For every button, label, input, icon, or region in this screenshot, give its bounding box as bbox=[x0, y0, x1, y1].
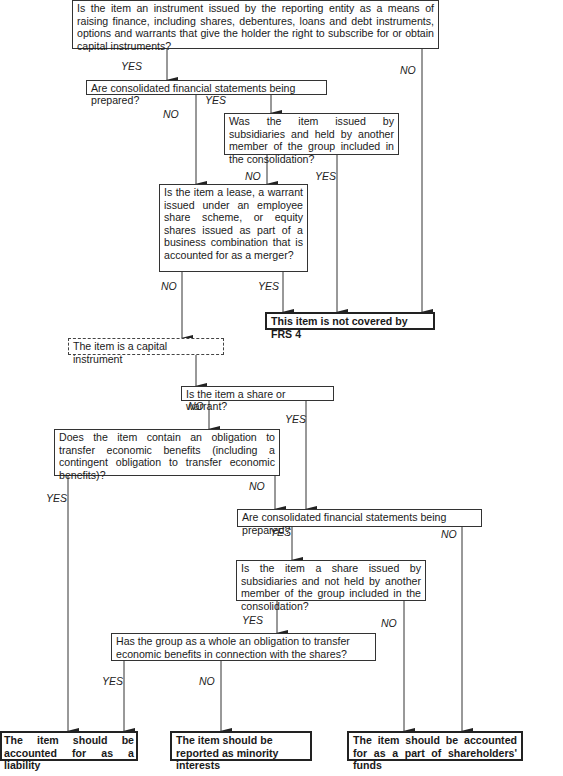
label-no: NO bbox=[199, 675, 215, 687]
label-no: NO bbox=[245, 170, 261, 182]
label-yes: YES bbox=[285, 413, 306, 425]
label-no: NO bbox=[400, 64, 416, 76]
label-no: NO bbox=[249, 480, 265, 492]
question-lease-warrant-merger: Is the item a lease, a warrant issued un… bbox=[159, 184, 308, 272]
result-shareholders-funds: The item should be accounted for as a pa… bbox=[347, 731, 523, 761]
label-no: NO bbox=[163, 108, 179, 120]
label-yes: YES bbox=[270, 526, 291, 538]
result-minority-interests: The item should be reported as minority … bbox=[170, 731, 312, 761]
question-group-obligation: Has the group as a whole an obligation t… bbox=[111, 633, 376, 661]
label-yes: YES bbox=[102, 675, 123, 687]
question-obligation-transfer: Does the item contain an obligation to t… bbox=[54, 429, 280, 476]
label-no: NO bbox=[441, 528, 457, 540]
label-yes: YES bbox=[46, 492, 67, 504]
label-no: NO bbox=[381, 617, 397, 629]
result-liability: The item should be accounted for as a li… bbox=[0, 731, 138, 761]
question-share-issued-by-subsidiaries: Is the item a share issued by subsidiari… bbox=[236, 560, 426, 601]
result-capital-instrument: The item is a capital instrument bbox=[68, 338, 224, 355]
label-no: NO bbox=[161, 280, 177, 292]
label-yes: YES bbox=[242, 614, 263, 626]
question-issued-by-subsidiaries: Was the item issued by subsidiaries and … bbox=[224, 113, 399, 155]
label-yes: YES bbox=[205, 94, 226, 106]
label-yes: YES bbox=[315, 170, 336, 182]
question-instrument: Is the item an instrument issued by the … bbox=[72, 0, 439, 49]
question-share-or-warrant: Is the item a share or warrant? bbox=[181, 386, 334, 401]
question-consolidated-2: Are consolidated financial statements be… bbox=[237, 509, 482, 527]
result-not-covered-frs4: This item is not covered by FRS 4 bbox=[265, 312, 435, 330]
label-yes: YES bbox=[258, 280, 279, 292]
question-consolidated-1: Are consolidated financial statements be… bbox=[86, 80, 327, 95]
label-yes: YES bbox=[121, 60, 142, 72]
label-no: NO bbox=[188, 400, 204, 412]
